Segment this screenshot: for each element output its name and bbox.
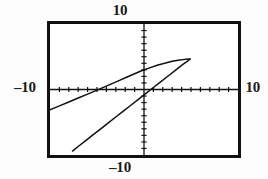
calculator-screen: 10 –10 10 –10 [0,0,268,179]
plot-frame [47,21,241,158]
curve-lower-branch [73,59,191,151]
x-axis-min-label: –10 [14,80,36,95]
y-axis-min-label: –10 [0,160,268,175]
axes-group [50,24,238,155]
plot-canvas [50,24,238,155]
y-axis-max-label: 10 [0,3,268,18]
x-axis-max-label: 10 [245,80,260,95]
curve-group [50,59,190,151]
curve-upper-branch [50,59,190,110]
